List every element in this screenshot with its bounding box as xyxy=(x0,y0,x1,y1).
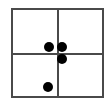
data-point xyxy=(44,42,54,52)
data-point xyxy=(57,54,67,64)
quadrant-figure xyxy=(0,0,110,105)
data-point xyxy=(43,82,53,92)
data-point xyxy=(57,42,67,52)
